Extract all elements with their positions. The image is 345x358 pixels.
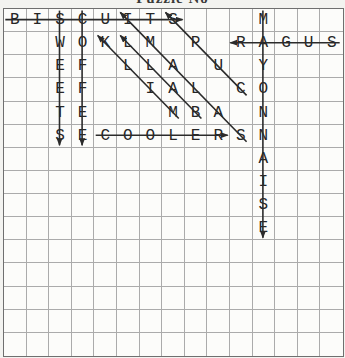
grid-letter: E	[78, 128, 88, 144]
grid-letter: B	[10, 12, 20, 28]
grid-cell	[207, 333, 230, 356]
grid-letter: A	[168, 81, 178, 97]
grid-cell	[140, 263, 163, 286]
grid-cell	[230, 148, 253, 171]
grid-cell	[275, 148, 298, 171]
grid-cell	[320, 102, 343, 125]
grid-cell	[4, 125, 27, 148]
grid-letter: P	[191, 35, 201, 51]
grid-letter: S	[259, 197, 269, 213]
grid-cell	[27, 333, 50, 356]
grid-cell	[140, 102, 163, 125]
grid-cell	[162, 217, 185, 240]
grid-cell: O	[253, 78, 276, 101]
grid-cell	[298, 287, 321, 310]
grid-letter: F	[78, 81, 88, 97]
grid-cell	[140, 333, 163, 356]
grid-letter: S	[327, 35, 337, 51]
grid-letter: O	[146, 128, 156, 144]
wordsearch-grid: BISCUITSMWOKLMPRAGUSEFLLAUYEFIALCOTEMBAN…	[3, 8, 344, 357]
grid-cell	[298, 148, 321, 171]
grid-cell	[275, 9, 298, 32]
grid-cell	[140, 194, 163, 217]
grid-cell	[72, 263, 95, 286]
grid-cell	[49, 263, 72, 286]
grid-cell	[275, 78, 298, 101]
grid-cell: S	[162, 9, 185, 32]
grid-cell	[275, 217, 298, 240]
grid-cell: O	[117, 125, 140, 148]
grid-cell	[230, 9, 253, 32]
grid-cell: I	[140, 78, 163, 101]
grid-cell: A	[207, 102, 230, 125]
grid-cell	[320, 125, 343, 148]
grid-cell	[298, 217, 321, 240]
grid-letter: U	[213, 58, 223, 74]
grid-cell: A	[253, 148, 276, 171]
grid-cell	[230, 333, 253, 356]
grid-letter: K	[100, 35, 110, 51]
grid-letter: T	[146, 12, 156, 28]
grid-cell	[4, 78, 27, 101]
grid-letter: S	[168, 12, 178, 28]
grid-cell	[4, 32, 27, 55]
grid-cell: S	[320, 32, 343, 55]
grid-letter: S	[55, 128, 65, 144]
grid-cell	[72, 240, 95, 263]
grid-cell	[94, 287, 117, 310]
grid-letter: A	[168, 58, 178, 74]
grid-cell	[94, 263, 117, 286]
grid-letter: M	[146, 35, 156, 51]
grid-cell	[185, 55, 208, 78]
grid-cell	[320, 310, 343, 333]
grid-cell	[162, 287, 185, 310]
grid-letter: C	[100, 128, 110, 144]
grid-cell	[185, 240, 208, 263]
grid-cell	[320, 217, 343, 240]
grid-cell	[298, 263, 321, 286]
grid-letter: A	[259, 151, 269, 167]
grid-cell: K	[94, 32, 117, 55]
grid-letter: E	[55, 81, 65, 97]
grid-cell	[72, 148, 95, 171]
grid-letter: A	[213, 105, 223, 121]
grid-letter: U	[304, 35, 314, 51]
grid-cell: F	[72, 55, 95, 78]
grid-letter: I	[259, 174, 269, 190]
grid-cell	[320, 78, 343, 101]
grid-cell	[27, 287, 50, 310]
grid-cell	[117, 310, 140, 333]
grid-letter: F	[78, 58, 88, 74]
grid-cell	[253, 333, 276, 356]
grid-cell	[253, 310, 276, 333]
grid-letter: L	[191, 81, 201, 97]
grid-cell: B	[185, 102, 208, 125]
grid-cell	[72, 310, 95, 333]
grid-cell	[4, 333, 27, 356]
grid-cell	[117, 287, 140, 310]
grid-cell: R	[207, 125, 230, 148]
grid-letter: R	[213, 128, 223, 144]
grid-cell	[162, 333, 185, 356]
grid-letter: M	[168, 105, 178, 121]
grid-letter: L	[123, 35, 133, 51]
grid-cell	[207, 310, 230, 333]
grid-cell: A	[162, 78, 185, 101]
grid-cell: O	[72, 32, 95, 55]
grid-cell	[230, 263, 253, 286]
grid-letter: T	[55, 105, 65, 121]
grid-cell	[49, 217, 72, 240]
grid-cell: M	[162, 102, 185, 125]
puzzle-title: Puzzle No	[0, 0, 345, 7]
grid-cell	[207, 78, 230, 101]
grid-cell: E	[253, 217, 276, 240]
grid-cell	[185, 171, 208, 194]
grid-cell	[275, 287, 298, 310]
grid-cell: L	[140, 55, 163, 78]
grid-letter: C	[78, 12, 88, 28]
grid-letter: N	[259, 105, 269, 121]
grid-cell	[207, 263, 230, 286]
grid-letter: G	[281, 35, 291, 51]
grid-cell	[253, 263, 276, 286]
grid-letter: O	[123, 128, 133, 144]
